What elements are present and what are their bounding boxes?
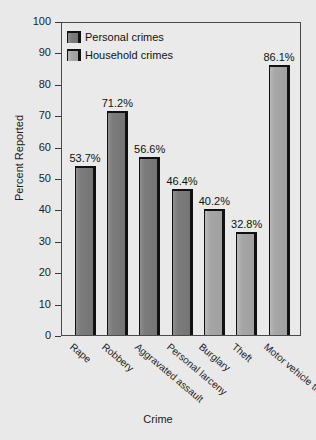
bar-value-label: 53.7% bbox=[61, 152, 109, 164]
x-axis-tick-label: Robbery bbox=[100, 341, 136, 374]
y-axis-tick-label: 10 bbox=[39, 298, 51, 310]
legend: Personal crimesHousehold crimes bbox=[67, 28, 217, 64]
y-axis-tick-label: 90 bbox=[39, 46, 51, 58]
bar bbox=[75, 166, 96, 335]
bar-value-label: 32.8% bbox=[223, 218, 271, 230]
y-axis-tick-label: 50 bbox=[39, 172, 51, 184]
bar-value-label: 46.4% bbox=[158, 175, 206, 187]
y-axis-tick-label: 70 bbox=[39, 109, 51, 121]
y-axis-tick-label: 60 bbox=[39, 141, 51, 153]
bar-value-label: 71.2% bbox=[93, 97, 141, 109]
x-axis-tick-label: Motor vehicle theft bbox=[262, 341, 316, 402]
legend-label: Household crimes bbox=[85, 49, 173, 61]
x-axis-tick-label: Rape bbox=[68, 341, 93, 365]
bar-value-label: 40.2% bbox=[190, 195, 238, 207]
plot-area: 53.7%71.2%56.6%46.4%40.2%32.8%86.1% Pers… bbox=[61, 22, 301, 336]
legend-item: Personal crimes bbox=[67, 28, 217, 45]
bar bbox=[236, 232, 257, 335]
y-axis: 0102030405060708090100 bbox=[0, 0, 61, 440]
y-axis-tick-label: 30 bbox=[39, 235, 51, 247]
chart-figure: Percent Reported 0102030405060708090100 … bbox=[0, 0, 316, 440]
y-axis-tick-label: 40 bbox=[39, 203, 51, 215]
y-axis-tick-label: 0 bbox=[45, 329, 51, 341]
legend-label: Personal crimes bbox=[85, 31, 164, 43]
y-axis-tick-label: 20 bbox=[39, 266, 51, 278]
bar bbox=[269, 65, 290, 335]
legend-swatch bbox=[67, 31, 81, 43]
x-axis-title: Crime bbox=[0, 413, 316, 425]
y-axis-tick-label: 80 bbox=[39, 78, 51, 90]
bar bbox=[139, 157, 160, 335]
y-axis-tick-label: 100 bbox=[33, 15, 51, 27]
y-axis-tick-mark bbox=[55, 336, 61, 337]
bar bbox=[172, 189, 193, 335]
x-axis-tick-label: Theft bbox=[230, 341, 255, 364]
bar-value-label: 56.6% bbox=[126, 143, 174, 155]
bar-value-label: 86.1% bbox=[255, 51, 303, 63]
legend-swatch bbox=[67, 49, 81, 61]
legend-item: Household crimes bbox=[67, 46, 217, 63]
